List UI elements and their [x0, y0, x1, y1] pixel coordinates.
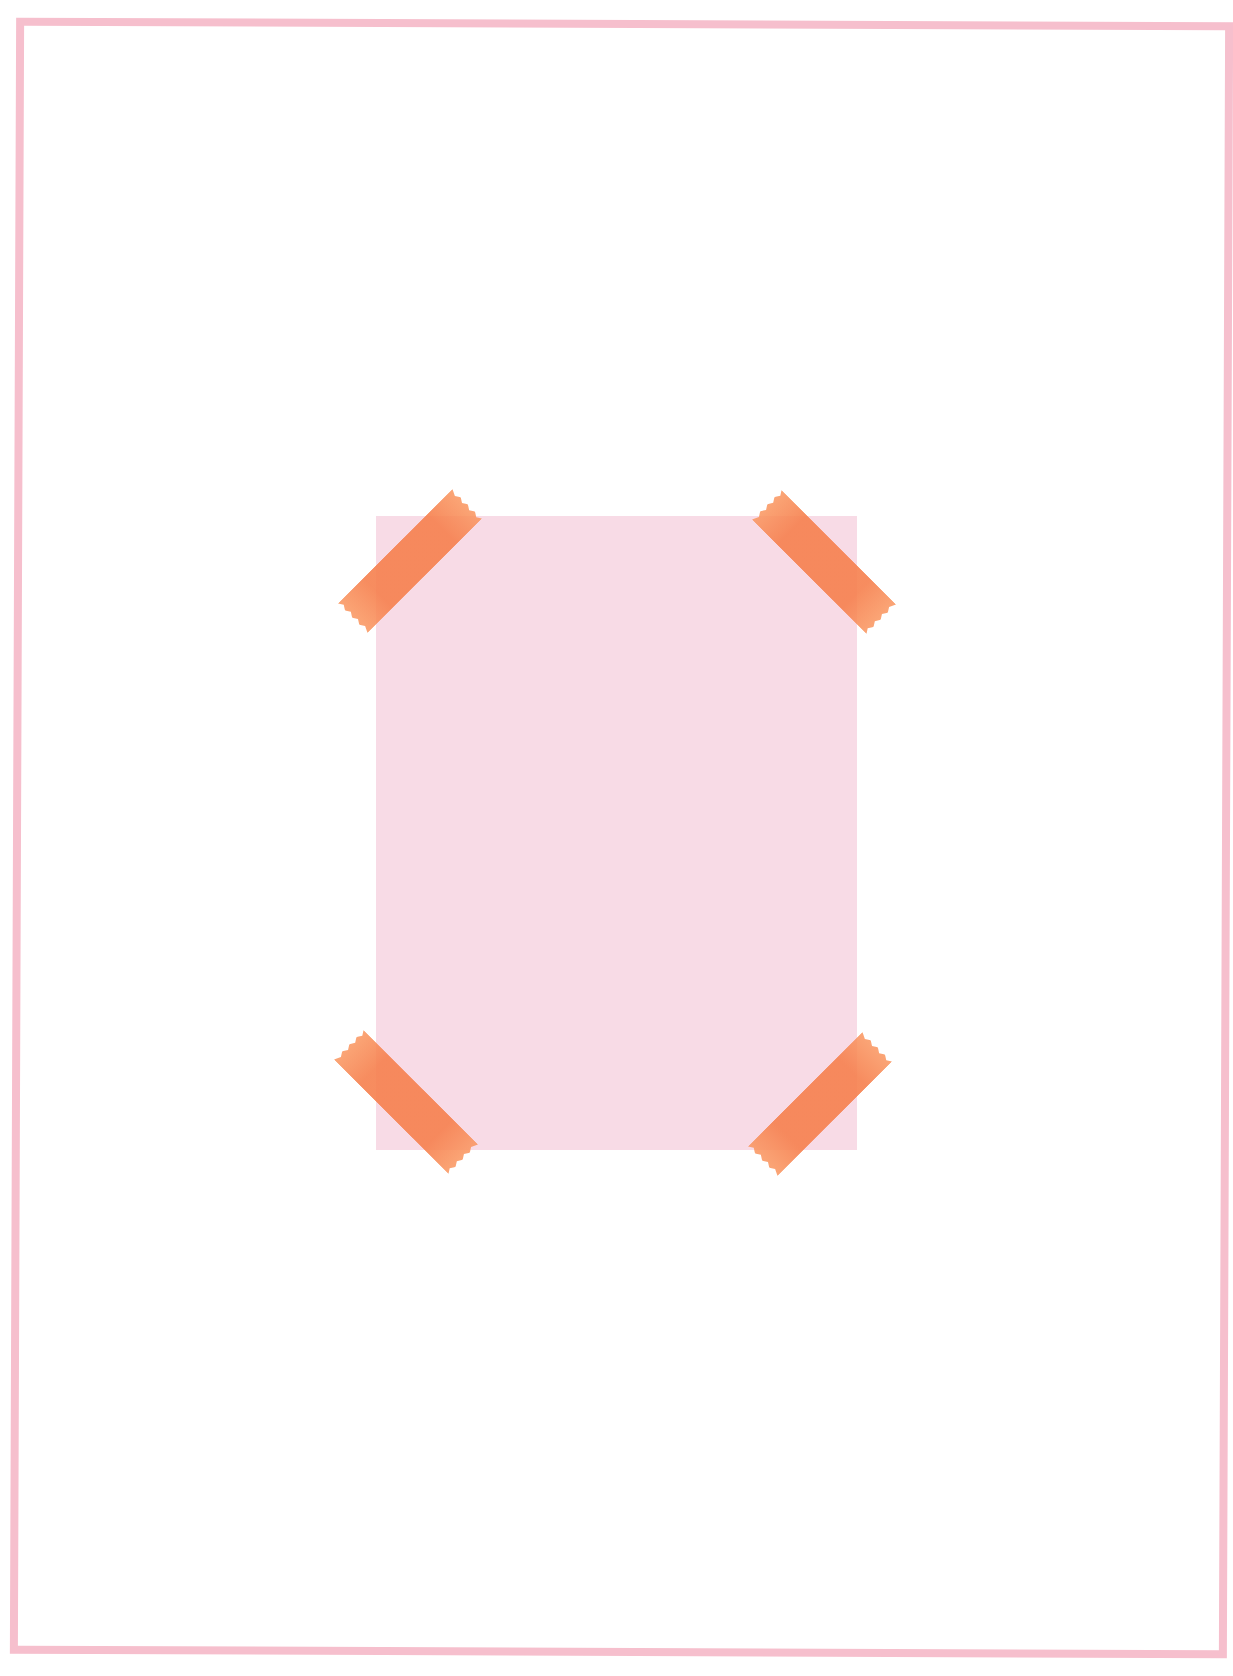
pink-photo-placeholder — [376, 516, 857, 1150]
